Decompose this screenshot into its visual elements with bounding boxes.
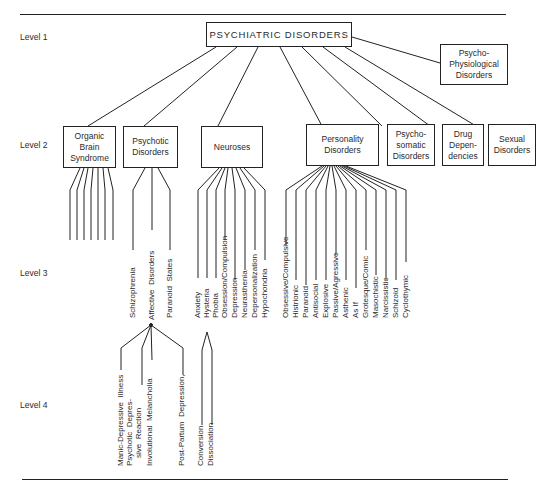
neurasthenia-label: Neurasthenia	[241, 270, 249, 318]
level-2-label: Level 2	[20, 140, 47, 150]
narcissistic-label: Narcissistic	[382, 278, 390, 318]
psychosomatic-disorders-box: Psycho- somatic Disorders	[387, 124, 435, 166]
schizophrenia-label: Schizophrenia	[129, 267, 137, 318]
paranoid-label: Paranoid	[302, 286, 310, 318]
level-3-label: Level 3	[20, 268, 47, 278]
psychotic-depression-label-1: Psychotic Depres-	[126, 399, 134, 466]
organic-brain-syndrome-box: Organic Brain Syndrome	[63, 126, 116, 168]
obsession-compulsion-label: Obsession/Compulsion	[221, 236, 229, 318]
involutional-melancholia-label: Involutional Melancholia	[146, 378, 154, 466]
phobia-label: Phobia	[212, 293, 220, 318]
psychiatric-disorders-box: PSYCHIATRIC DISORDERS	[206, 22, 352, 47]
masochistic-label: Masochistic	[372, 276, 380, 318]
hysteria-label: Hysteria	[203, 289, 211, 318]
drug-dependencies-box: Drug Depen- dencies	[442, 124, 484, 166]
level-1-label: Level 1	[20, 32, 47, 42]
dissociation-label: Dissociation	[207, 423, 215, 466]
hypochondria-label: Hypochondria	[261, 269, 269, 318]
schizoid-label: Schizoid	[392, 288, 400, 318]
post-partum-depression-label: Post-Partum Depression,	[178, 374, 186, 466]
conversion-label: Conversion	[197, 426, 205, 466]
passive-agressive-label: Passive/Agressive	[332, 253, 340, 318]
affective-disorders-label: Affective Disorders	[148, 251, 156, 320]
antisocial-label: Antisocial	[312, 284, 320, 318]
sexual-disorders-box: Sexual Disorders	[488, 124, 536, 166]
depersonalization-label: Depersonalization	[251, 254, 259, 318]
paranoid-states-label: Paranoid States	[166, 259, 174, 318]
manic-depressive-label: Manic-Depressive Illness	[117, 375, 125, 466]
personality-disorders-box: Personality Disorders	[306, 124, 379, 166]
grotesque-comic-label: Grotesque/Comic	[362, 256, 370, 318]
asthenic-label: Asthenic	[342, 287, 350, 318]
obsessive-compulsive-label: Obsessive/Compulsive	[282, 237, 290, 318]
cyclothymic-label: Cyclothymic	[402, 275, 410, 318]
psychotic-disorders-box: Psychotic Disorders	[123, 126, 178, 168]
psychotic-depression-label-2: sive Reaction	[135, 408, 143, 458]
histrionic-label: Histrionic	[292, 285, 300, 318]
anxiety-label: Anxiety	[194, 292, 202, 318]
level-4-label: Level 4	[20, 400, 47, 410]
explosive-label: Explosive	[322, 284, 330, 318]
as-if-label: As If	[352, 302, 360, 318]
psychophysiological-box: Psycho- Physiological Disorders	[440, 44, 508, 85]
neuroses-box: Neuroses	[201, 126, 263, 168]
depression-label: Depression	[231, 278, 239, 318]
